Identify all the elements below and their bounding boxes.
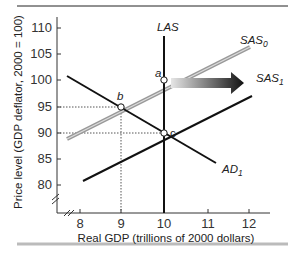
x-tick-11: 11: [201, 216, 215, 231]
point-a-label: a: [155, 67, 161, 79]
point-b: [118, 104, 124, 110]
aggregate-supply-chart: 110 105 100 95 90 85 80 8 9 10 11 12 Rea…: [0, 0, 294, 257]
point-b-label: b: [117, 90, 124, 102]
point-c: [161, 130, 167, 136]
x-tick-9: 9: [117, 216, 124, 231]
x-axis-title: Real GDP (trillions of 2000 dollars): [78, 232, 255, 244]
y-tick-100: 100: [30, 72, 52, 87]
sas1-label: SAS1: [256, 72, 284, 87]
point-c-label: c: [170, 127, 176, 139]
point-a: [161, 77, 167, 83]
y-tick-90: 90: [38, 125, 52, 140]
axes: [52, 17, 270, 216]
y-axis-title: Price level (GDP deflator, 2000 = 100): [12, 15, 24, 209]
x-tick-12: 12: [242, 216, 256, 231]
ad1-curve: [67, 76, 216, 163]
las-label: LAS: [157, 21, 179, 33]
y-tick-85: 85: [38, 151, 52, 166]
sas0-label: SAS0: [240, 34, 268, 49]
y-tick-110: 110: [31, 20, 52, 35]
y-tick-105: 105: [30, 46, 52, 61]
x-tick-10: 10: [157, 216, 171, 231]
y-tick-80: 80: [38, 177, 52, 192]
y-tick-95: 95: [38, 99, 52, 114]
x-tick-8: 8: [76, 216, 83, 231]
shift-arrow-icon: [171, 72, 244, 94]
ad1-label: AD1: [221, 163, 243, 178]
